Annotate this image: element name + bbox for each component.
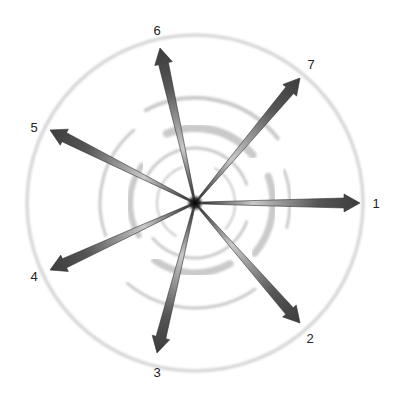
arrow-label-3: 3 — [153, 366, 160, 379]
hub-dot — [186, 194, 204, 212]
spiral-arc — [147, 148, 246, 184]
center-hub — [186, 194, 204, 212]
arrow-3 — [152, 203, 196, 353]
spiral-arrow-diagram: 1234567 — [0, 0, 399, 397]
arrow-1 — [195, 194, 360, 212]
spiral-arc — [284, 171, 290, 228]
diagram-canvas — [0, 0, 399, 397]
spiral-arc — [128, 283, 256, 308]
spiral-arc — [100, 130, 134, 235]
spiral-arc — [155, 260, 230, 273]
arrow-label-1: 1 — [372, 197, 379, 210]
arrow-label-5: 5 — [30, 121, 37, 134]
spiral-arc — [157, 167, 182, 236]
arrow-label-2: 2 — [306, 332, 313, 345]
arrow-label-6: 6 — [153, 24, 160, 37]
spiral-arc — [255, 176, 273, 253]
arrow-4 — [50, 202, 195, 271]
arrow-label-4: 4 — [30, 270, 37, 283]
arrow-label-7: 7 — [307, 58, 314, 71]
